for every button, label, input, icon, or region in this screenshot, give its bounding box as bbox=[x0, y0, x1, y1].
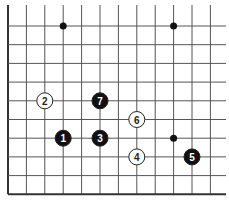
go-board[interactable]: 2761345 bbox=[0, 0, 229, 202]
stone-number: 5 bbox=[189, 152, 195, 163]
stone-number: 2 bbox=[42, 96, 48, 107]
black-stone-5[interactable]: 5 bbox=[184, 149, 200, 165]
black-stone-1[interactable]: 1 bbox=[55, 130, 71, 146]
stone-number: 6 bbox=[134, 115, 140, 126]
white-stone-2[interactable]: 2 bbox=[37, 93, 53, 109]
stone-number: 7 bbox=[97, 96, 103, 107]
black-stone-3[interactable]: 3 bbox=[92, 130, 108, 146]
white-stone-4[interactable]: 4 bbox=[129, 149, 145, 165]
star-point bbox=[60, 23, 67, 30]
stone-number: 3 bbox=[97, 133, 103, 144]
star-point bbox=[170, 135, 177, 142]
stone-number: 4 bbox=[134, 152, 140, 163]
black-stone-7[interactable]: 7 bbox=[92, 93, 108, 109]
stone-number: 1 bbox=[60, 133, 66, 144]
star-point bbox=[170, 23, 177, 30]
white-stone-6[interactable]: 6 bbox=[129, 112, 145, 128]
